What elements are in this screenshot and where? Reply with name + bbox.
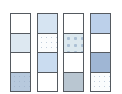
strip-cell xyxy=(38,34,57,54)
strip-cell xyxy=(38,53,57,73)
strip-cell xyxy=(91,14,110,34)
strip-cell xyxy=(38,73,57,92)
strip-cell xyxy=(91,73,110,92)
strip-cell xyxy=(64,73,83,92)
strip-column-1 xyxy=(10,13,31,92)
strip-cell xyxy=(11,53,30,73)
strip-cell xyxy=(11,34,30,54)
strip-cell xyxy=(38,14,57,34)
strip-cell xyxy=(11,73,30,92)
strip-cell xyxy=(91,34,110,54)
strip-column-4 xyxy=(90,13,111,92)
strip-cell xyxy=(11,14,30,34)
strip-cell xyxy=(64,34,83,54)
strip-column-2 xyxy=(37,13,58,92)
strip-cell xyxy=(64,53,83,73)
strip-cell xyxy=(91,53,110,73)
strip-column-3 xyxy=(63,13,84,92)
strip-cell xyxy=(64,14,83,34)
